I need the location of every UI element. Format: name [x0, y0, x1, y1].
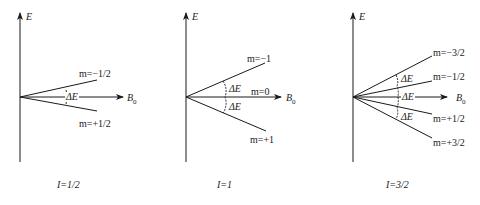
level-label: m=−1/2	[433, 72, 465, 82]
energy-axis-label-3: E	[359, 12, 365, 22]
delta-e-label: ΔE	[229, 102, 241, 112]
level-line-m-minus-1-2	[353, 81, 432, 97]
caption-text: I=3/2	[386, 179, 409, 190]
energy-axis-label-1: E	[26, 12, 32, 22]
energy-axis-label-2: E	[192, 12, 198, 22]
level-label: m=−1/2	[79, 69, 111, 79]
panel-caption-1: I=1/2	[57, 180, 80, 190]
level-label: m=+3/2	[433, 138, 465, 148]
panel-1-graphics	[20, 13, 123, 162]
caption-text: I=1	[217, 179, 232, 190]
level-line-m-plus-half	[20, 97, 97, 111]
level-label: m=+1/2	[79, 119, 111, 129]
field-label-3: B0	[456, 93, 466, 106]
delta-e-label: ΔE	[401, 74, 413, 84]
level-label: m=−1	[247, 54, 271, 64]
level-label: m=0	[251, 87, 269, 97]
caption-text: I=1/2	[57, 179, 80, 190]
level-label: m=+1	[250, 135, 274, 145]
level-line-m-minus-half	[20, 80, 97, 97]
delta-e-label: ΔE	[401, 112, 413, 122]
level-label: m=+1/2	[433, 114, 465, 124]
panel-caption-2: I=1	[217, 180, 232, 190]
panel-caption-3: I=3/2	[386, 180, 409, 190]
level-label: m=−3/2	[433, 48, 465, 58]
level-line-m-minus-3-2	[353, 56, 432, 97]
field-label-2: B0	[286, 93, 296, 106]
zeeman-splitting-diagram: E m=−1/2 m=+1/2 ΔE B0 I=1/2 E m=−1 m=0 m…	[0, 0, 480, 205]
delta-e-label: ΔE	[401, 92, 415, 102]
level-line-m-plus-1-2	[353, 97, 432, 114]
field-subscript: 0	[292, 98, 296, 106]
field-subscript: 0	[133, 98, 137, 106]
field-label-1: B0	[127, 93, 137, 106]
level-line-m-plus-3-2	[353, 97, 432, 138]
delta-e-label: ΔE	[65, 92, 79, 102]
delta-e-label: ΔE	[229, 84, 241, 94]
field-subscript: 0	[462, 98, 466, 106]
level-line-m-plus-1	[186, 97, 266, 131]
